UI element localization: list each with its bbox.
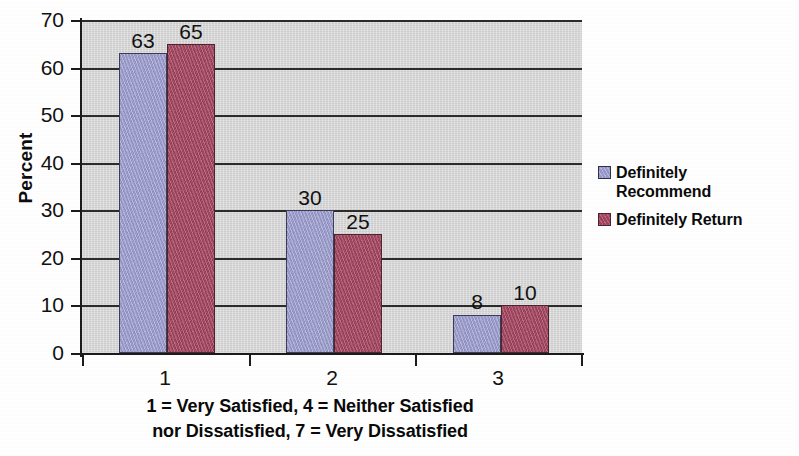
x-axis-caption-line2: nor Dissatisfied, 7 = Very Dissatisfied: [40, 419, 580, 444]
x-tick-label-1: 1: [135, 366, 195, 390]
y-tick-mark-10: [71, 305, 82, 307]
bar-return-3: [501, 305, 549, 353]
gridline-70: [82, 20, 582, 22]
bar-recommend-2: [286, 210, 334, 353]
legend-swatch-icon-return: [598, 213, 611, 226]
bar-value-return-2: 25: [330, 211, 386, 232]
bar-return-2: [334, 234, 382, 353]
bar-recommend-1: [119, 53, 167, 353]
y-tick-mark-0: [71, 353, 82, 355]
y-tick-mark-60: [71, 68, 82, 70]
bar-chart-figure: 63 65 30 25 8 10 70 60 50 40 30 20 10 0 …: [0, 0, 799, 456]
x-tick-mark-right: [581, 354, 583, 366]
legend-label-recommend-line1: Definitely: [616, 164, 687, 181]
legend-item-definitely-recommend[interactable]: Definitely Recommend: [598, 163, 796, 201]
bar-value-return-1: 65: [163, 21, 219, 42]
y-tick-label-70: 70: [4, 9, 64, 30]
bar-value-recommend-2: 30: [282, 187, 338, 208]
x-axis-line: [80, 353, 584, 355]
legend-label-recommend: Definitely Recommend: [616, 163, 711, 201]
legend-label-return: Definitely Return: [616, 210, 742, 229]
y-tick-label-60: 60: [4, 57, 64, 78]
y-tick-mark-50: [71, 115, 82, 117]
x-tick-mark-left: [82, 354, 84, 366]
y-tick-mark-30: [71, 210, 82, 212]
x-tick-label-3: 3: [468, 366, 528, 390]
y-tick-mark-40: [71, 163, 82, 165]
legend: Definitely Recommend Definitely Return: [598, 163, 796, 238]
legend-item-definitely-return[interactable]: Definitely Return: [598, 210, 796, 229]
bar-recommend-3: [453, 315, 501, 353]
x-axis-caption: 1 = Very Satisfied, 4 = Neither Satisfie…: [40, 394, 580, 444]
bar-return-1: [167, 44, 215, 353]
y-axis-title: Percent: [15, 98, 37, 238]
y-tick-label-0: 0: [4, 342, 64, 363]
x-tick-label-2: 2: [302, 366, 362, 390]
y-tick-mark-70: [71, 20, 82, 22]
plot-area: 63 65 30 25 8 10: [82, 20, 582, 353]
legend-swatch-icon-recommend: [598, 166, 611, 179]
y-tick-label-10: 10: [4, 294, 64, 315]
legend-label-recommend-line2: Recommend: [616, 183, 711, 200]
y-tick-label-20: 20: [4, 247, 64, 268]
x-tick-mark-2: [415, 354, 417, 366]
x-axis-caption-line1: 1 = Very Satisfied, 4 = Neither Satisfie…: [40, 394, 580, 419]
bar-value-return-3: 10: [497, 282, 553, 303]
y-tick-mark-20: [71, 258, 82, 260]
x-tick-mark-1: [249, 354, 251, 366]
